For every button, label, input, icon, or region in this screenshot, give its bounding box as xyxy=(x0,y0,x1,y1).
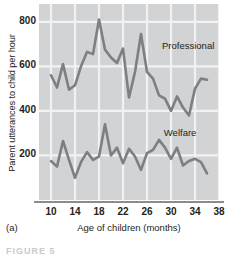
y-axis-tick-labels: 200400600800 xyxy=(9,0,36,200)
x-tick-26: 26 xyxy=(135,206,159,217)
figure-panel-a: Parent utterances to child per hour 2004… xyxy=(0,0,239,254)
chart-svg xyxy=(39,4,219,200)
y-tick-800: 800 xyxy=(10,15,36,26)
series-label-welfare: Welfare xyxy=(164,127,197,138)
y-tick-400: 400 xyxy=(10,104,36,115)
x-tick-22: 22 xyxy=(111,206,135,217)
caption-sliver: FIGURE 5 xyxy=(6,246,56,254)
y-tick-600: 600 xyxy=(10,59,36,70)
x-tick-30: 30 xyxy=(159,206,183,217)
panel-letter: (a) xyxy=(6,222,18,233)
x-tick-10: 10 xyxy=(39,206,63,217)
plot-area: Professional Welfare xyxy=(39,4,219,200)
x-tick-14: 14 xyxy=(63,206,87,217)
y-tick-200: 200 xyxy=(10,148,36,159)
series-label-professional: Professional xyxy=(162,40,214,51)
x-tick-34: 34 xyxy=(183,206,207,217)
x-tick-38: 38 xyxy=(207,206,231,217)
x-tick-18: 18 xyxy=(87,206,111,217)
x-axis-tick-labels: 1014182226303438 xyxy=(39,206,219,220)
x-axis-title: Age of children (months) xyxy=(39,222,219,233)
x-axis-line xyxy=(34,201,224,203)
gridlines-vertical xyxy=(51,4,219,200)
